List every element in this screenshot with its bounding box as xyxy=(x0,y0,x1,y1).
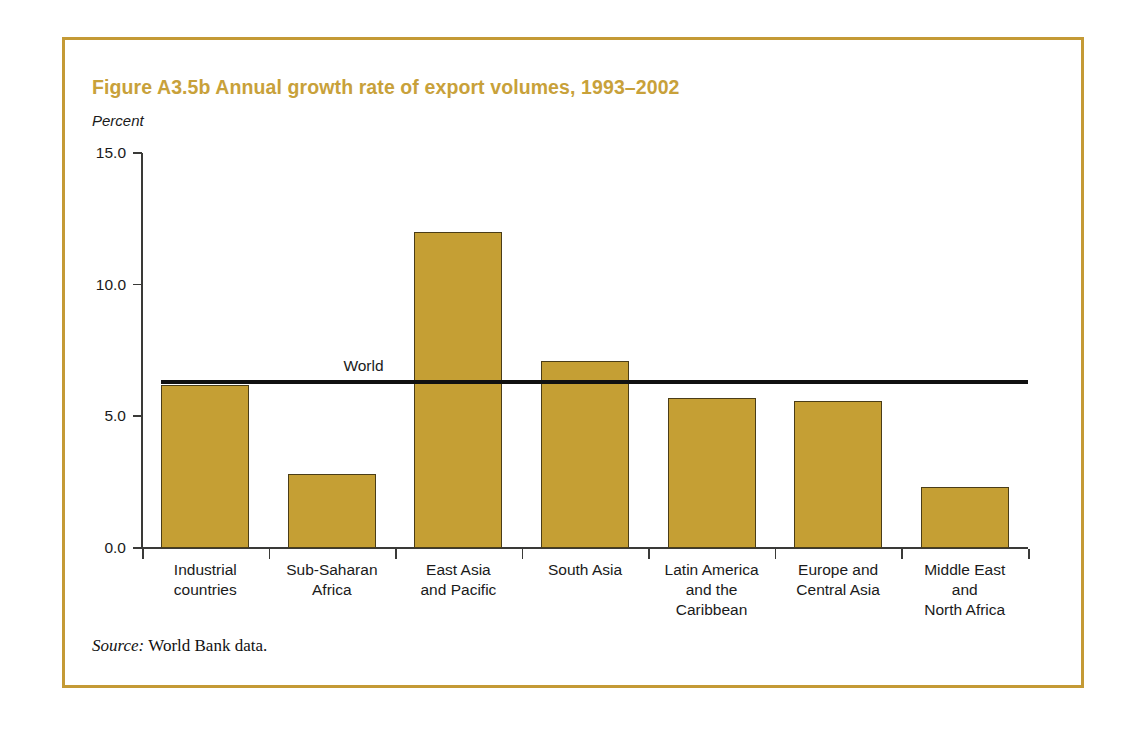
x-tick-mark xyxy=(522,549,524,559)
category-label-line: North Africa xyxy=(890,600,1040,620)
bar xyxy=(541,361,629,548)
bar xyxy=(921,487,1009,548)
world-reference-label: World xyxy=(328,357,400,375)
x-tick-mark xyxy=(1028,549,1030,559)
x-tick-mark xyxy=(269,549,271,559)
category-label-line: and Pacific xyxy=(383,580,533,600)
x-tick-mark xyxy=(142,549,144,559)
y-tick-mark xyxy=(133,284,142,286)
y-tick-mark xyxy=(133,415,142,417)
source-label: Source: xyxy=(92,636,144,655)
y-tick-mark xyxy=(133,152,142,154)
y-axis-line xyxy=(141,153,143,549)
x-axis-category-label: Middle EastandNorth Africa xyxy=(890,560,1040,620)
y-tick-label: 0.0 xyxy=(80,539,126,557)
y-tick-label: 15.0 xyxy=(80,144,126,162)
bar xyxy=(668,398,756,548)
category-label-line: and xyxy=(890,580,1040,600)
category-label-line: Caribbean xyxy=(637,600,787,620)
source-value: World Bank data. xyxy=(144,636,267,655)
bar xyxy=(794,401,882,548)
category-label-line: Middle East xyxy=(890,560,1040,580)
x-tick-mark xyxy=(775,549,777,559)
x-tick-mark xyxy=(901,549,903,559)
world-reference-line xyxy=(161,380,1028,384)
y-tick-label: 5.0 xyxy=(80,407,126,425)
bar xyxy=(288,474,376,548)
source-note: Source: World Bank data. xyxy=(92,636,267,656)
bar xyxy=(414,232,502,548)
figure-page: Figure A3.5b Annual growth rate of expor… xyxy=(0,0,1146,745)
bar xyxy=(161,385,249,548)
y-tick-label: 10.0 xyxy=(80,276,126,294)
bar-chart-plot: 0.05.010.015.0 World Industrialcountries… xyxy=(0,0,1146,745)
x-tick-mark xyxy=(395,549,397,559)
x-tick-mark xyxy=(648,549,650,559)
y-tick-mark xyxy=(133,547,142,549)
